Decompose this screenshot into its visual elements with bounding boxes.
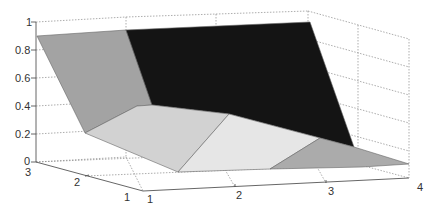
x-axis-line <box>143 178 409 191</box>
x-tick-labels: 1 2 3 4 <box>147 181 423 205</box>
y-tick-label: 1 <box>124 191 130 203</box>
z-tick-label: 1 <box>26 16 32 28</box>
x-tick-label: 2 <box>236 189 242 201</box>
surface-plot: 1 0.8 0.6 0.4 0.2 0 3 2 1 1 2 3 4 <box>0 0 433 211</box>
z-tick-label: 0.2 <box>15 128 30 140</box>
z-tick-labels: 1 0.8 0.6 0.4 0.2 0 <box>15 16 32 167</box>
z-tick-label: 0.4 <box>15 100 30 112</box>
surface-panels <box>37 22 409 172</box>
y-tick-label: 2 <box>74 176 80 188</box>
x-tick-label: 4 <box>417 181 423 193</box>
x-tick-label: 3 <box>328 185 334 197</box>
y-tick-labels: 3 2 1 <box>25 166 130 203</box>
z-tick-label: 0.8 <box>15 44 30 56</box>
y-axis-line <box>36 162 143 191</box>
z-tick-label: 0.6 <box>15 72 30 84</box>
y-tick-label: 3 <box>25 166 31 178</box>
x-tick-label: 1 <box>147 193 153 205</box>
